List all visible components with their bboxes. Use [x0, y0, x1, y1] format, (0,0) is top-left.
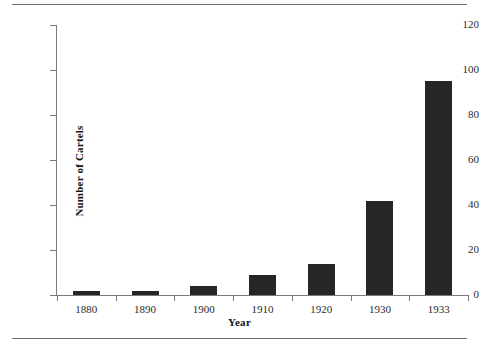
bar — [249, 275, 276, 295]
x-axis-tick — [116, 295, 117, 301]
x-axis-title: Year — [0, 316, 479, 328]
bar — [425, 81, 452, 295]
y-axis-tick — [50, 295, 56, 296]
bar — [190, 286, 217, 295]
y-axis-tick — [50, 160, 56, 161]
y-axis-tick — [50, 25, 56, 26]
x-axis-line — [56, 295, 468, 296]
x-axis-tick-label: 1880 — [56, 303, 116, 315]
bar — [308, 264, 335, 296]
x-axis-tick — [233, 295, 234, 301]
bar — [366, 201, 393, 296]
bar-chart-figure: 020406080100120 188018901900191019201930… — [0, 0, 479, 351]
x-axis-tick — [174, 295, 175, 301]
y-axis-tick — [50, 205, 56, 206]
bar — [132, 291, 159, 296]
x-axis-tick — [292, 295, 293, 301]
x-axis-tick-label: 1930 — [350, 303, 410, 315]
x-axis-tick-label: 1900 — [174, 303, 234, 315]
x-axis-tick — [57, 295, 58, 301]
x-axis-tick-label: 1910 — [233, 303, 293, 315]
y-axis-tick — [50, 70, 56, 71]
x-axis-tick — [409, 295, 410, 301]
y-axis-tick — [50, 115, 56, 116]
x-axis-tick — [351, 295, 352, 301]
x-axis-tick-label: 1920 — [291, 303, 351, 315]
x-axis-tick-label: 1933 — [409, 303, 469, 315]
bar — [73, 291, 100, 296]
plot-area: Number of Cartels — [57, 25, 468, 295]
y-axis-tick — [50, 250, 56, 251]
x-axis-tick-label: 1890 — [115, 303, 175, 315]
y-axis-title: Number of Cartels — [73, 91, 85, 251]
x-axis-tick — [468, 295, 469, 301]
